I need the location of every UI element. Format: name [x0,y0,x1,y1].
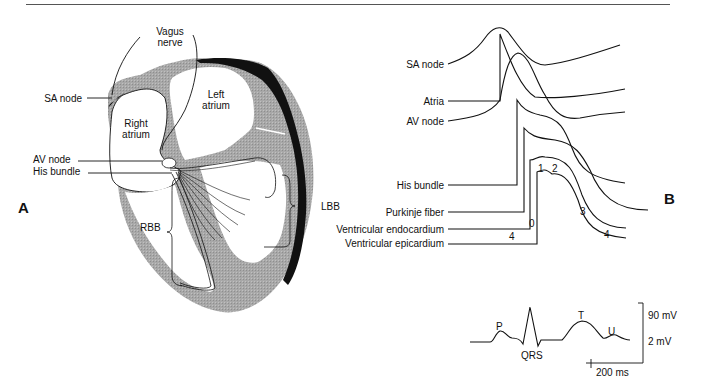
label-rbb: RBB [140,222,161,233]
phase-4-right: 4 [604,229,610,240]
label-trace-epicardium: Ventricular epicardium [296,238,444,249]
phase-3: 3 [580,206,586,217]
ecg-p-label: P [496,321,503,332]
label-trace-endocardium: Ventricular endocardium [296,224,444,235]
panel-a-letter: A [18,199,29,216]
ecg-scale-200ms: 200 ms [596,367,629,378]
label-trace-sa-node: SA node [330,59,444,70]
label-left-atrium: Left atrium [196,89,236,111]
trace-atria [448,34,625,101]
label-trace-his-bundle: His bundle [330,180,444,191]
label-av-node: AV node [33,154,71,165]
label-sa-node: SA node [20,93,82,104]
label-trace-purkinje: Purkinje fiber [330,207,444,218]
phase-4-left: 4 [509,231,515,242]
label-right-atrium: Right atrium [115,118,157,140]
panel-b-letter: B [664,190,675,207]
phase-0: 0 [529,218,535,229]
ecg-scale-90mv: 90 mV [648,310,677,321]
trace-sa-node [448,28,620,65]
ecg-qrs-label: QRS [521,350,543,361]
label-trace-av-node: AV node [330,116,444,127]
trace-epicardium [448,170,626,244]
label-trace-atria: Atria [330,96,444,107]
ecg-scale-2mv: 2 mV [648,336,671,347]
phase-2: 2 [552,163,558,174]
av-node-shape [162,158,176,168]
trace-purkinje [448,128,648,212]
heart-diagram [78,35,313,312]
label-his-bundle: His bundle [33,166,80,177]
phase-1: 1 [538,163,544,174]
ecg-u-label: U [608,326,615,337]
label-vagus-nerve: Vagus nerve [146,26,194,48]
action-potential-traces [448,28,648,244]
ecg-t-label: T [578,310,584,321]
ecg-trace [470,307,630,346]
